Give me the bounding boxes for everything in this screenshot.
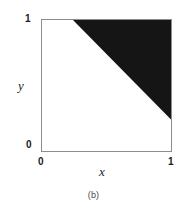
y-axis-title: y bbox=[18, 79, 24, 92]
x-axis-min-tick-label: 0 bbox=[38, 157, 44, 167]
shaded-region bbox=[42, 20, 171, 151]
x-axis-title: x bbox=[99, 165, 105, 178]
y-axis-min-tick-label: 0 bbox=[26, 140, 32, 150]
shaded-triangle bbox=[73, 20, 171, 120]
y-axis-max-tick-label: 1 bbox=[25, 14, 31, 24]
figure-panel: 1 0 y 0 1 x (b) bbox=[0, 0, 187, 211]
plot-area bbox=[41, 19, 172, 152]
x-axis-max-tick-label: 1 bbox=[168, 157, 174, 167]
figure-caption: (b) bbox=[0, 191, 187, 200]
